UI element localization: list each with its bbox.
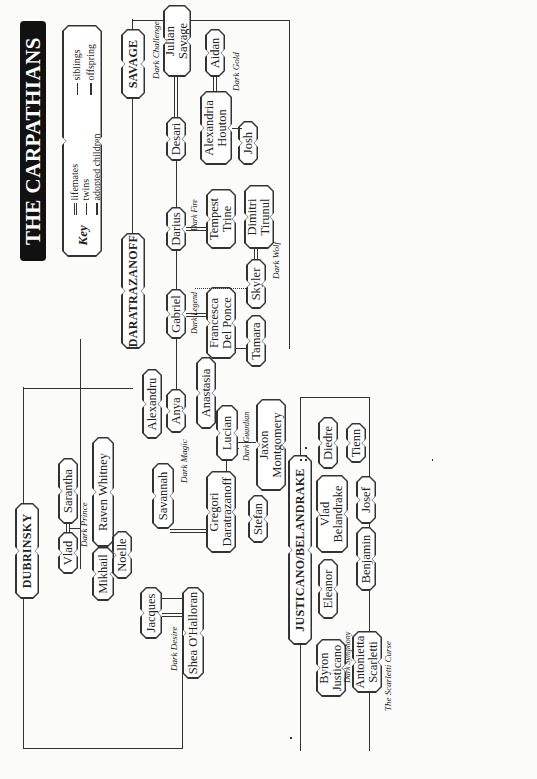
person-name: Alexandria Houton xyxy=(202,93,231,164)
family-daratrazanoff: DARATRAZANOFF xyxy=(121,233,145,349)
person-name: Desari xyxy=(168,119,185,160)
person-name: Jacques xyxy=(142,589,161,638)
person-skyler: Skyler xyxy=(246,259,266,309)
person-name: Tamara xyxy=(248,317,265,366)
person-name: Savannah xyxy=(154,465,173,528)
family-label: DUBRINSKY xyxy=(17,505,38,598)
person-jaxon: Jaxon Montgomery xyxy=(256,399,286,491)
key-item-label: siblings xyxy=(71,49,82,80)
person-savannah: Savannah xyxy=(152,463,174,529)
double-line-icon xyxy=(74,204,77,216)
person-julian: Julian Savage xyxy=(163,5,191,77)
person-shea: Shea O'Halloran xyxy=(182,587,204,679)
person-aidan: Aidan xyxy=(205,29,225,77)
person-byron: Byron Justicano xyxy=(316,639,346,697)
family-savage: SAVAGE xyxy=(121,29,145,99)
person-name: Vlad xyxy=(60,534,77,573)
person-lucian: Lucian xyxy=(216,405,238,461)
book-scarletti-curse: The Scarletti Curse xyxy=(384,641,394,711)
person-alexandru: Alexandru xyxy=(142,369,162,439)
person-name: Francesca Del Ponce xyxy=(208,289,235,358)
person-name: Dimitri Tirunul xyxy=(246,187,273,248)
person-name: Diedre xyxy=(320,419,337,468)
legend-key: Key lifemates twins adopted children sib… xyxy=(62,25,102,257)
person-name: Josh xyxy=(240,123,257,164)
family-label: DARATRAZANOFF xyxy=(123,235,144,348)
dotted-offspring-icon xyxy=(96,204,98,216)
book-dark-fire: Dark Fire xyxy=(190,199,200,231)
key-offspring: offspring xyxy=(84,44,97,95)
person-name: Vlad Belandrake xyxy=(318,477,347,552)
person-gabriel: Gabriel xyxy=(166,289,186,339)
person-name: Darius xyxy=(168,209,185,250)
person-name: Eleanor xyxy=(320,561,337,618)
person-name: Gabriel xyxy=(168,291,185,338)
person-name: Shea O'Halloran xyxy=(184,589,203,678)
person-jacques: Jacques xyxy=(140,587,162,639)
person-name: Anastasia xyxy=(198,359,215,428)
person-francesca: Francesca Del Ponce xyxy=(206,287,236,359)
person-name: Josef xyxy=(358,478,375,523)
family-label: SAVAGE xyxy=(123,31,144,98)
person-sarantha: Sarantha xyxy=(58,458,78,524)
twin-mark-icon xyxy=(86,204,87,216)
person-name: Gregori Daratrazanoff xyxy=(208,473,235,552)
key-adopted: adopted children xyxy=(90,134,103,216)
person-darius: Darius xyxy=(166,207,186,251)
t-line-icon xyxy=(90,84,92,96)
book-dark-wolf: Dark Wolf xyxy=(272,242,282,279)
key-item-label: adopted children xyxy=(91,134,102,201)
person-name: Lucian xyxy=(218,407,237,460)
person-name: Julian Savage xyxy=(165,7,190,76)
person-vlad-belandrake: Vlad Belandrake xyxy=(316,475,348,553)
person-gregori: Gregori Daratrazanoff xyxy=(206,471,236,553)
person-name: Benjamin xyxy=(358,529,375,590)
person-alexandria: Alexandria Houton xyxy=(200,91,232,165)
person-name: Jaxon Montgomery xyxy=(258,401,285,490)
family-dubrinsky: DUBRINSKY xyxy=(15,503,39,599)
person-anya: Anya xyxy=(166,389,186,433)
book-dark-gold: Dark Gold xyxy=(232,52,242,91)
key-label: Key xyxy=(76,225,89,245)
carpathians-family-tree: THE CARPATHIANS Key lifemates twins adop… xyxy=(0,0,537,779)
person-name: Raven Whitney xyxy=(94,439,113,546)
person-name: Noelle xyxy=(114,533,131,578)
book-dark-desire: Dark Desire xyxy=(170,627,180,671)
person-noelle: Noelle xyxy=(112,531,132,579)
person-antonietta: Antonietta Scarletti xyxy=(352,631,382,693)
person-name: Tempest Trine xyxy=(208,191,235,248)
page-title: THE CARPATHIANS xyxy=(20,21,46,261)
single-line-icon xyxy=(77,84,78,96)
book-dark-legend: Dark Legend xyxy=(190,292,200,334)
person-name: Anya xyxy=(168,391,185,432)
person-name: Aidan xyxy=(207,31,224,76)
person-anastasia: Anastasia xyxy=(196,357,216,429)
book-dark-guardian: Dark Guardian xyxy=(242,412,252,461)
person-desari: Desari xyxy=(166,117,186,161)
person-dimitri: Dimitri Tirunul xyxy=(244,185,274,249)
person-name: Mikhail xyxy=(94,549,113,600)
person-name: Tienn xyxy=(348,425,365,462)
family-label: JUSTICANO/BELANDRAKE xyxy=(290,457,311,644)
book-dark-challenge: Dark Challenge xyxy=(152,21,162,79)
person-name: Byron Justicano xyxy=(318,641,345,696)
person-name: Skyler xyxy=(248,261,265,308)
person-raven: Raven Whitney xyxy=(92,437,114,547)
book-dark-symphony: Dark Symphony xyxy=(343,632,353,683)
person-name: Stefan xyxy=(250,497,267,542)
key-item-label: offspring xyxy=(85,44,96,80)
book-dark-magic: Dark Magic xyxy=(180,439,190,483)
book-dark-prince: Dark Prince xyxy=(80,502,90,547)
person-stefan: Stefan xyxy=(248,495,268,543)
key-siblings: siblings xyxy=(70,49,83,95)
person-name: Antonietta Scarletti xyxy=(354,633,381,692)
person-tamara: Tamara xyxy=(246,315,266,367)
person-name: Sarantha xyxy=(60,460,77,523)
person-vlad: Vlad xyxy=(58,532,78,574)
person-tempest: Tempest Trine xyxy=(206,189,236,249)
person-mikhail: Mikhail xyxy=(92,547,114,601)
person-name: Alexandru xyxy=(144,371,161,438)
